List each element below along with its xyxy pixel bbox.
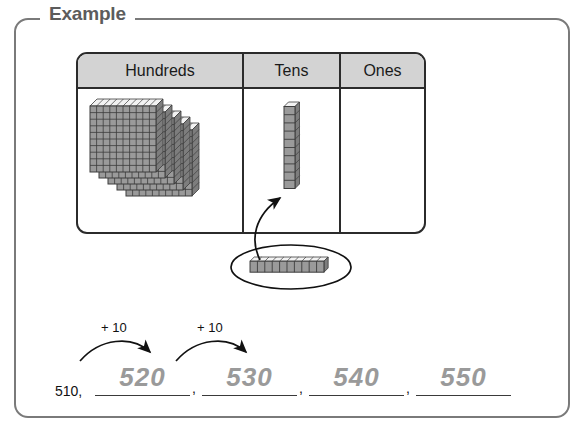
answer-rule-1	[95, 395, 190, 396]
cell-hundreds	[78, 89, 242, 234]
answer-rule-4	[416, 395, 511, 396]
sequence-comma-2: ,	[299, 380, 303, 396]
sequence-answer-4: 550	[416, 362, 511, 392]
answer-rule-3	[309, 395, 404, 396]
place-value-table-header: Hundreds Tens Ones	[78, 54, 424, 89]
sequence-comma-3: ,	[406, 380, 410, 396]
sequence-blank-4[interactable]: 550	[416, 362, 511, 396]
operation-label-1: + 10	[101, 320, 127, 335]
sequence-answer-1: 520	[95, 362, 190, 392]
sequence-blank-3[interactable]: 540	[309, 362, 404, 396]
sequence-answer-3: 540	[309, 362, 404, 392]
cell-ones	[339, 89, 424, 234]
skip-count-arrows	[60, 316, 290, 366]
sequence-blank-1[interactable]: 520	[95, 362, 190, 396]
column-header-ones: Ones	[339, 54, 424, 87]
number-sequence: 510, 520 , 530 , 540 , 550	[50, 362, 550, 404]
example-legend: Example	[40, 4, 135, 24]
answer-rule-2	[202, 395, 297, 396]
column-header-hundreds: Hundreds	[78, 54, 242, 87]
sequence-comma-1: ,	[192, 380, 196, 396]
callout-pointer-arrow	[240, 168, 330, 263]
column-header-tens: Tens	[242, 54, 339, 87]
sequence-answer-2: 530	[202, 362, 297, 392]
hundreds-flat	[90, 99, 166, 175]
sequence-start-number: 510,	[55, 383, 82, 399]
sequence-blank-2[interactable]: 530	[202, 362, 297, 396]
operation-label-2: + 10	[197, 320, 223, 335]
